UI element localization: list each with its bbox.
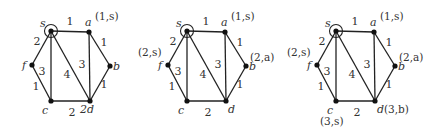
graph-stage-2: 123431112sa(1,s)b(2,a)dcf(2,s) (138, 10, 274, 119)
edge-weight-s-d: 4 (64, 68, 71, 81)
edge-s-a (187, 31, 225, 32)
node-label-s: s (176, 17, 182, 30)
edge-weight-b-d: 1 (237, 78, 244, 91)
edge-a-d (225, 32, 226, 101)
edge-weight-a-d: 3 (79, 58, 86, 71)
node-b (392, 63, 397, 68)
node-annotation-c: (3,s) (320, 115, 344, 127)
edge-weight-s-f: 2 (170, 35, 177, 48)
edge-weight-s-a: 1 (203, 15, 210, 28)
node-annotation-f: (2,s) (138, 46, 162, 58)
node-label-b: b (113, 60, 120, 73)
edge-weight-s-f: 2 (319, 35, 326, 48)
edge-s-a (336, 31, 374, 32)
node-annotation-f: (2,s) (287, 46, 311, 58)
node-label-f: f (306, 59, 313, 72)
node-annotation-d: (3,b) (384, 103, 409, 115)
node-c (333, 98, 338, 103)
node-label-d: d (377, 103, 384, 116)
node-label-c: c (178, 104, 184, 117)
node-label-a: a (221, 16, 228, 29)
node-a (371, 29, 376, 34)
node-annotation-b: (2,a) (250, 51, 274, 63)
node-s (48, 28, 53, 33)
graph-stage-1: 123431112sa(1,s)b2dcf (21, 10, 120, 119)
node-s (333, 28, 338, 33)
node-annotation-a: (1,s) (380, 10, 404, 22)
node-c (48, 98, 53, 103)
node-f (29, 62, 34, 67)
edge-weight-a-b: 1 (101, 36, 108, 49)
edge-weight-c-d: 2 (354, 106, 361, 119)
edge-a-d (374, 32, 375, 101)
edge-weight-a-b: 1 (386, 36, 393, 49)
node-label-f: f (21, 59, 28, 72)
edge-weight-c-d: 2 (69, 106, 76, 119)
node-label-a: a (370, 16, 377, 29)
edge-weight-f-c: 1 (33, 80, 40, 93)
edge-weight-s-c: 3 (175, 65, 182, 78)
node-label-a: a (85, 16, 92, 29)
edge-weight-s-c: 3 (324, 65, 331, 78)
edge-weight-a-d: 3 (364, 58, 371, 71)
edge-a-d (89, 32, 90, 101)
edge-weight-b-d: 1 (101, 78, 108, 91)
node-label-d: 2d (79, 103, 94, 116)
node-b (107, 63, 112, 68)
node-annotation-a: (1,s) (95, 10, 119, 22)
node-s (184, 28, 189, 33)
node-label-c: c (42, 104, 48, 117)
edge-weight-s-d: 4 (200, 68, 207, 81)
node-f (165, 62, 170, 67)
node-c (184, 98, 189, 103)
edge-weight-s-c: 3 (39, 65, 46, 78)
edge-s-a (51, 31, 89, 32)
node-a (222, 29, 227, 34)
edge-weight-a-b: 1 (237, 36, 244, 49)
diagram-canvas: 123431112sa(1,s)b2dcf123431112sa(1,s)b(2… (0, 0, 446, 127)
node-b (243, 63, 248, 68)
node-label-s: s (325, 17, 331, 30)
edge-weight-s-d: 4 (349, 68, 356, 81)
edge-weight-b-d: 1 (386, 78, 393, 91)
edge-weight-f-c: 1 (169, 80, 176, 93)
edge-weight-s-a: 1 (67, 15, 74, 28)
node-label-s: s (40, 17, 46, 30)
edge-weight-s-a: 1 (352, 15, 359, 28)
node-label-d: d (228, 103, 235, 116)
node-annotation-b: (2,a) (399, 51, 423, 63)
edge-weight-s-f: 2 (34, 35, 41, 48)
node-f (314, 62, 319, 67)
edge-weight-c-d: 2 (205, 106, 212, 119)
node-label-f: f (157, 59, 164, 72)
edge-weight-f-c: 1 (318, 80, 325, 93)
node-a (86, 29, 91, 34)
node-annotation-a: (1,s) (231, 10, 255, 22)
graph-stage-3: 123431112sa(1,s)b(2,a)d(3,b)c(3,s)f(2,s) (287, 10, 423, 127)
edge-weight-a-d: 3 (215, 58, 222, 71)
